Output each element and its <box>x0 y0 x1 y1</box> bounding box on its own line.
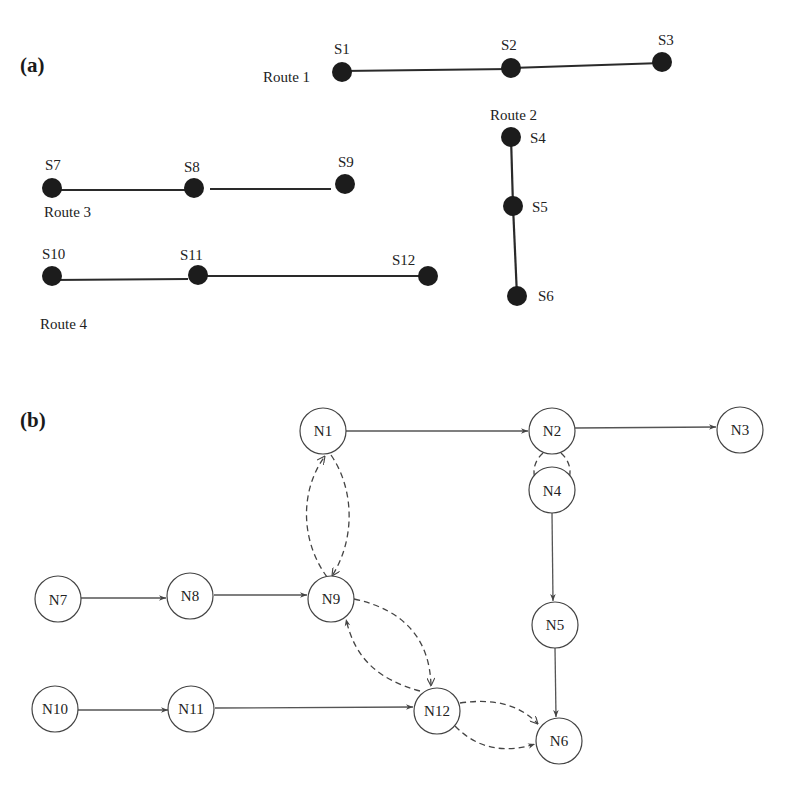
stop-s5 <box>503 196 523 216</box>
solid-edges <box>78 427 716 717</box>
edge-n9-n1 <box>306 456 327 577</box>
node-label-n3: N3 <box>731 422 749 438</box>
stop-label-s2: S2 <box>501 37 517 53</box>
edge-n11-n12 <box>215 707 413 708</box>
route-3: S7 S8 S9 Route 3 <box>42 154 355 220</box>
stop-s11 <box>188 265 208 285</box>
edge-n9-n12 <box>354 599 431 686</box>
node-label-n9: N9 <box>322 591 340 607</box>
panel-b-label: (b) <box>20 408 46 432</box>
stop-label-s8: S8 <box>184 159 200 175</box>
node-label-n8: N8 <box>181 588 199 604</box>
node-label-n2: N2 <box>543 423 561 439</box>
stop-label-s5: S5 <box>532 199 548 215</box>
node-label-n11: N11 <box>178 701 203 717</box>
node-label-n12: N12 <box>424 703 450 719</box>
route-label-3: Route 3 <box>44 204 91 220</box>
route-network-diagram: (a) S1 S2 S3 Route 1 S4 S5 S6 Route 2 <box>0 0 800 786</box>
stop-s2 <box>501 58 521 78</box>
panel-a: (a) S1 S2 S3 Route 1 S4 S5 S6 Route 2 <box>20 32 674 332</box>
node-n12: N12 <box>414 688 460 734</box>
stop-s4 <box>501 127 521 147</box>
stop-s10 <box>42 266 62 286</box>
stop-label-s10: S10 <box>42 246 65 262</box>
node-n10: N10 <box>32 686 78 732</box>
route-2: S4 S5 S6 Route 2 <box>490 107 554 306</box>
stop-s3 <box>652 52 672 72</box>
route-label-2: Route 2 <box>490 107 537 123</box>
stop-s9 <box>335 174 355 194</box>
stop-label-s1: S1 <box>334 41 350 57</box>
node-label-n10: N10 <box>42 701 68 717</box>
stop-s6 <box>507 286 527 306</box>
stop-label-s9: S9 <box>338 154 354 170</box>
stop-label-s12: S12 <box>392 252 415 268</box>
edge-n5-n6 <box>555 648 556 717</box>
edge-n12-n6-lower <box>455 726 535 749</box>
route-1: S1 S2 S3 Route 1 <box>263 32 674 85</box>
edge-n1-n9 <box>331 455 349 576</box>
node-n2: N2 <box>529 408 575 454</box>
node-n1: N1 <box>300 408 346 454</box>
node-n7: N7 <box>35 576 81 622</box>
node-label-n4: N4 <box>543 483 562 499</box>
node-label-n5: N5 <box>546 617 564 633</box>
node-n9: N9 <box>308 576 354 622</box>
edge-n12-n9 <box>346 619 420 691</box>
node-label-n1: N1 <box>314 423 332 439</box>
node-n8: N8 <box>167 573 213 619</box>
node-n3: N3 <box>717 407 763 453</box>
edge-n2-n3 <box>575 427 716 428</box>
node-label-n6: N6 <box>550 733 569 749</box>
route-label-4: Route 4 <box>40 316 88 332</box>
panel-a-label: (a) <box>20 53 45 77</box>
stop-label-s3: S3 <box>658 32 674 48</box>
node-label-n7: N7 <box>49 592 68 608</box>
node-n4: N4 <box>529 467 575 513</box>
stop-s7 <box>42 178 62 198</box>
edge-n12-n6-upper <box>460 701 538 724</box>
stop-label-s11: S11 <box>180 247 203 263</box>
route-4: S10 S11 S12 Route 4 <box>40 246 438 332</box>
route-label-1: Route 1 <box>263 69 310 85</box>
panel-b: (b) <box>20 407 763 764</box>
stop-s12 <box>418 266 438 286</box>
node-n11: N11 <box>168 686 214 732</box>
node-n6: N6 <box>536 718 582 764</box>
edge-n4-n5 <box>552 513 553 601</box>
stop-s1 <box>332 62 352 82</box>
stop-label-s4: S4 <box>530 130 546 146</box>
stop-label-s7: S7 <box>45 157 61 173</box>
node-n5: N5 <box>532 602 578 648</box>
stop-s8 <box>184 178 204 198</box>
stop-label-s6: S6 <box>538 288 554 304</box>
